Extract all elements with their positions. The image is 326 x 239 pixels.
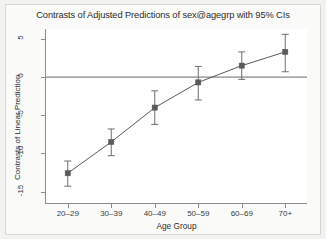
data-point-marker[interactable] <box>196 80 201 85</box>
chart-figure: Contrasts of Adjusted Predictions of sex… <box>0 0 326 239</box>
y-axis-line <box>45 29 46 204</box>
y-tick-mark <box>41 153 45 154</box>
x-tick-mark <box>155 204 156 208</box>
x-tick-label: 50–59 <box>174 209 222 218</box>
data-point-marker[interactable] <box>109 139 114 144</box>
x-tick-label: 30–39 <box>87 209 135 218</box>
y-axis-title: Contrasts of Linear Prediction <box>13 75 22 180</box>
series-line <box>68 52 286 173</box>
plot-region <box>46 29 307 203</box>
plot-svg <box>46 29 307 203</box>
data-point-marker[interactable] <box>152 105 157 110</box>
x-tick-mark <box>68 204 69 208</box>
x-axis-title: Age Group <box>46 221 307 231</box>
x-tick-mark <box>198 204 199 208</box>
y-tick-mark <box>41 77 45 78</box>
data-point-marker[interactable] <box>239 63 244 68</box>
x-tick-mark <box>242 204 243 208</box>
x-tick-label: 70+ <box>261 209 309 218</box>
data-point-marker[interactable] <box>65 171 70 176</box>
x-tick-mark <box>111 204 112 208</box>
y-tick-mark <box>41 192 45 193</box>
x-axis-line <box>45 203 307 204</box>
y-tick-label: 5 <box>16 22 25 52</box>
x-tick-label: 40–49 <box>131 209 179 218</box>
x-tick-label: 60–69 <box>218 209 266 218</box>
data-point-marker[interactable] <box>283 49 288 54</box>
chart-title: Contrasts of Adjusted Predictions of sex… <box>0 10 326 20</box>
y-tick-mark <box>41 115 45 116</box>
x-tick-mark <box>285 204 286 208</box>
y-tick-mark <box>41 39 45 40</box>
x-tick-label: 20–29 <box>44 209 92 218</box>
